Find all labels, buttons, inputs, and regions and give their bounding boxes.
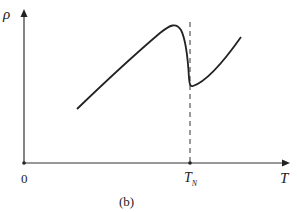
x-axis-label: T [280,170,288,187]
y-axis-arrow-icon [21,9,28,17]
figure-caption: (b) [119,194,134,210]
tn-label-sub: N [192,179,197,188]
tn-label: TN [184,170,197,188]
resistivity-curve [77,25,241,109]
origin-dot [22,161,26,165]
tn-label-main: T [184,170,192,185]
x-axis-arrow-icon [282,160,290,167]
origin-label: 0 [21,171,28,187]
y-axis-label: ρ [3,6,10,23]
chart-canvas [0,0,297,212]
